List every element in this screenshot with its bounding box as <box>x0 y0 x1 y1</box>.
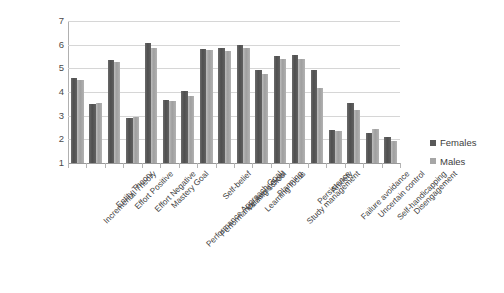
y-tick-label-6: 6 <box>44 40 64 50</box>
x-tick <box>363 163 364 168</box>
bar-group <box>381 21 399 163</box>
bar-chart: 1234567 Incremental TheoryEntity TheoryE… <box>0 0 504 293</box>
bar-group <box>160 21 178 163</box>
x-tick <box>197 163 198 168</box>
legend-label: Males <box>440 157 465 167</box>
bar-group <box>308 21 326 163</box>
bar-males <box>354 110 360 163</box>
x-tick <box>216 163 217 168</box>
x-tick <box>160 163 161 168</box>
x-tick <box>326 163 327 168</box>
bar-males <box>243 48 249 163</box>
bar-group <box>179 21 197 163</box>
legend-item-females[interactable]: Females <box>430 138 500 148</box>
bar-males <box>96 103 102 163</box>
bar-males <box>114 62 120 163</box>
legend-item-males[interactable]: Males <box>430 157 500 167</box>
x-tick <box>86 163 87 168</box>
bar-group <box>271 21 289 163</box>
legend-label: Females <box>440 138 476 148</box>
x-tick <box>345 163 346 168</box>
bar-group <box>234 21 252 163</box>
x-tick <box>271 163 272 168</box>
plot-area <box>68 21 400 163</box>
bar-males <box>169 101 175 163</box>
bar-males <box>206 50 212 163</box>
x-tick <box>105 163 106 168</box>
bar-males <box>391 141 397 163</box>
bar-group <box>216 21 234 163</box>
bar-group <box>68 21 86 163</box>
y-tick-label-7: 7 <box>44 16 64 26</box>
x-tick <box>252 163 253 168</box>
x-tick <box>382 163 383 168</box>
bar-group <box>197 21 215 163</box>
x-axis-labels: Incremental TheoryEntity TheoryEffort Po… <box>68 170 401 290</box>
bar-males <box>317 88 323 163</box>
x-axis-ticks <box>68 163 401 168</box>
bar-group <box>123 21 141 163</box>
bar-group <box>86 21 104 163</box>
bar-males <box>133 117 139 163</box>
x-axis-label: Study management <box>306 170 362 226</box>
y-tick-label-1: 1 <box>44 158 64 168</box>
bar-males <box>262 74 268 163</box>
bar-males <box>77 80 83 163</box>
bar-males <box>372 129 378 163</box>
x-tick <box>123 163 124 168</box>
bar-males <box>280 59 286 163</box>
x-tick <box>400 163 401 168</box>
y-axis: 1234567 <box>44 14 64 164</box>
x-tick <box>179 163 180 168</box>
x-tick <box>289 163 290 168</box>
legend-swatch-icon <box>430 158 436 164</box>
bar-males <box>188 96 194 163</box>
bar-group <box>252 21 270 163</box>
bar-males <box>225 51 231 163</box>
y-tick-label-2: 2 <box>44 135 64 145</box>
bar-group <box>105 21 123 163</box>
bar-group <box>142 21 160 163</box>
x-tick <box>142 163 143 168</box>
bar-males <box>298 59 304 163</box>
y-tick-label-5: 5 <box>44 64 64 74</box>
bar-group <box>326 21 344 163</box>
bar-group <box>289 21 307 163</box>
bar-males <box>151 48 157 163</box>
bar-group <box>363 21 381 163</box>
y-tick-label-4: 4 <box>44 87 64 97</box>
chart-legend: FemalesMales <box>430 138 500 175</box>
bars-layer <box>68 21 400 163</box>
x-tick <box>68 163 69 168</box>
bar-males <box>335 131 341 163</box>
bar-group <box>345 21 363 163</box>
x-tick <box>308 163 309 168</box>
y-tick-label-3: 3 <box>44 111 64 121</box>
legend-swatch-icon <box>430 140 436 146</box>
x-tick <box>234 163 235 168</box>
